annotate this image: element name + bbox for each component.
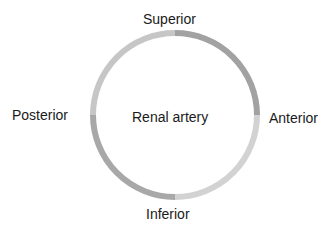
ring-quadrant-top-left <box>93 33 175 115</box>
label-anterior: Anterior <box>269 110 318 126</box>
ring-quadrant-bottom-right <box>175 115 257 197</box>
center-label-renal-artery: Renal artery <box>132 109 208 125</box>
ring-quadrant-bottom-left <box>93 115 175 197</box>
label-superior: Superior <box>143 11 196 27</box>
label-posterior: Posterior <box>12 107 68 123</box>
label-inferior: Inferior <box>146 206 190 222</box>
ring-quadrant-top-right <box>175 33 257 115</box>
